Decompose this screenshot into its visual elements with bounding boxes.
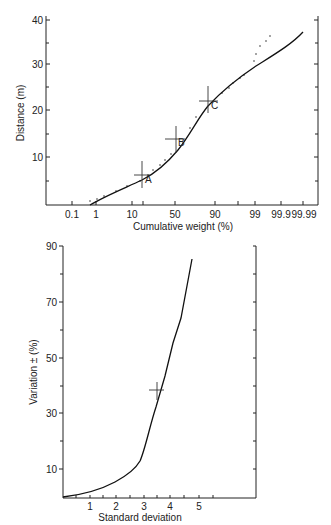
- top-observations: [89, 35, 271, 202]
- bottom-x-tick-5: 5: [196, 501, 202, 512]
- top-x-tick-10: 10: [126, 209, 138, 220]
- top-x-tick-99: 99: [249, 209, 261, 220]
- bottom-x-tick-1: 1: [87, 501, 93, 512]
- top-marker-A-label: A: [145, 174, 152, 185]
- bottom-marker: [149, 382, 164, 400]
- top-x-tick-90: 90: [209, 209, 221, 220]
- bottom-y-tick-10: 10: [46, 464, 58, 475]
- top-y-tick-40: 40: [32, 15, 44, 26]
- bottom-y-tick-30: 30: [46, 408, 58, 419]
- top-y-tick-30: 30: [32, 59, 44, 70]
- bottom-y-tick-50: 50: [46, 353, 58, 364]
- bottom-y-axis-label: Variation ± (%): [28, 339, 39, 404]
- top-x-axis-label: Cumulative weight (%): [133, 221, 233, 232]
- bottom-x-tick-4: 4: [167, 501, 173, 512]
- top-chart: [46, 16, 318, 205]
- top-y-tick-20: 20: [32, 105, 44, 116]
- bottom-x-tick-2: 2: [113, 501, 119, 512]
- bottom-x-tick-3: 3: [141, 501, 147, 512]
- bottom-x-axis-label: Standard deviation: [98, 512, 181, 523]
- bottom-y-tick-90: 90: [46, 241, 58, 252]
- top-x-tick-99.9: 99.9: [271, 209, 291, 220]
- top-x-tick-50: 50: [169, 209, 181, 220]
- top-x-tick-99.99: 99.99: [291, 209, 316, 220]
- top-y-tick-10: 10: [32, 152, 44, 163]
- figure: 40 30 20 10 0.1 1 10 50 90 99 99.9 99.99…: [0, 0, 331, 525]
- bottom-y-tick-70: 70: [46, 297, 58, 308]
- top-fitted-curve: [90, 32, 303, 205]
- bottom-chart: [59, 246, 256, 498]
- top-y-axis-label: Distance (m): [15, 85, 26, 142]
- top-x-tick-0.1: 0.1: [65, 209, 79, 220]
- top-x-tick-1: 1: [93, 209, 99, 220]
- top-marker-C-label: C: [211, 100, 218, 111]
- top-marker-B-label: B: [178, 137, 185, 148]
- bottom-variation-curve: [63, 259, 192, 497]
